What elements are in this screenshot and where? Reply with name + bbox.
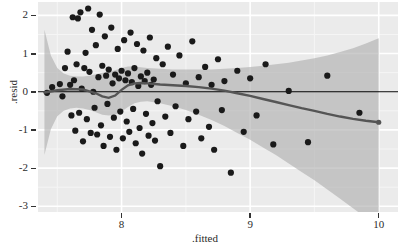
x-tick-mark — [249, 213, 251, 218]
x-tick-label: 9 — [237, 219, 263, 230]
x-axis-label: .fitted — [0, 232, 410, 244]
y-tick-mark — [31, 15, 36, 17]
plot-panel — [38, 2, 398, 212]
y-tick-mark — [31, 129, 36, 131]
y-tick-mark — [31, 206, 36, 208]
residual-plot: 210-1-2-38910 .resid .fitted — [0, 0, 410, 249]
y-tick-mark — [31, 53, 36, 55]
y-tick-label: -1 — [6, 124, 28, 135]
y-tick-label: -3 — [6, 200, 28, 211]
y-tick-label: 1 — [6, 48, 28, 59]
x-tick-label: 8 — [109, 219, 135, 230]
y-tick-label: 2 — [6, 9, 28, 20]
x-tick-mark — [121, 213, 123, 218]
y-tick-mark — [31, 91, 36, 93]
loess-smooth-line — [38, 2, 398, 212]
y-axis-label: .resid — [7, 62, 19, 122]
y-tick-mark — [31, 168, 36, 170]
x-tick-mark — [378, 213, 380, 218]
y-tick-label: -2 — [6, 162, 28, 173]
x-tick-label: 10 — [366, 219, 392, 230]
